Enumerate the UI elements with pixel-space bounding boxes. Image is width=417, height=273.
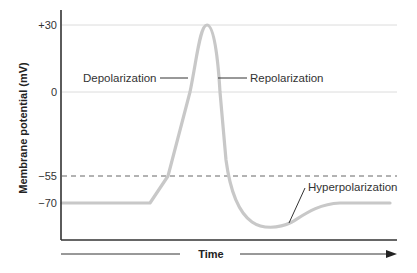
- hyperpolarization-label: Hyperpolarization: [308, 181, 398, 193]
- depolarization-label: Depolarization: [83, 72, 157, 84]
- ytick-minus55: −55: [38, 170, 57, 182]
- ytick-plus30: +30: [38, 19, 57, 31]
- action-potential-diagram: +30 0 −55 −70 Membrane potential (mV) De…: [0, 0, 417, 273]
- x-axis-title: Time: [198, 248, 223, 260]
- arrowhead-icon: [386, 250, 397, 258]
- y-axis-title: Membrane potential (mV): [17, 62, 29, 194]
- ytick-zero: 0: [51, 86, 57, 98]
- ytick-minus70: −70: [38, 197, 57, 209]
- repolarization-label: Repolarization: [250, 72, 324, 84]
- action-potential-curve: [62, 25, 390, 227]
